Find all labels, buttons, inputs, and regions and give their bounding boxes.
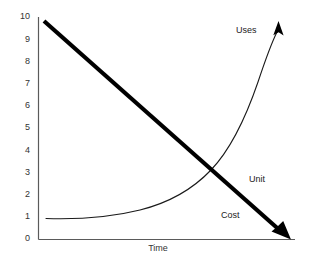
- y-tick-label-3: 3: [25, 167, 30, 177]
- y-tick-label-2: 2: [25, 189, 30, 199]
- x-axis-title: Time: [148, 243, 168, 253]
- y-tick-label-8: 8: [25, 56, 30, 66]
- unit-cost-vs-uses-chart: 10 9 8 7 6 5 4 3 2 1 0 Uses Unit Cost Ti…: [0, 0, 309, 267]
- unit-cost-line: [44, 21, 280, 231]
- y-tick-label-9: 9: [25, 34, 30, 44]
- chart-container: 10 9 8 7 6 5 4 3 2 1 0 Uses Unit Cost Ti…: [0, 0, 309, 267]
- unit-series-label: Unit: [249, 174, 266, 184]
- y-tick-label-7: 7: [25, 78, 30, 88]
- y-tick-label-5: 5: [25, 122, 30, 132]
- cost-series-label: Cost: [221, 210, 240, 220]
- uses-series-label: Uses: [236, 25, 257, 35]
- y-tick-label-4: 4: [25, 145, 30, 155]
- uses-arrowhead-icon: [273, 21, 283, 36]
- y-tick-label-6: 6: [25, 100, 30, 110]
- y-tick-label-0: 0: [25, 233, 30, 243]
- y-tick-label-1: 1: [25, 211, 30, 221]
- y-tick-label-10: 10: [20, 11, 30, 21]
